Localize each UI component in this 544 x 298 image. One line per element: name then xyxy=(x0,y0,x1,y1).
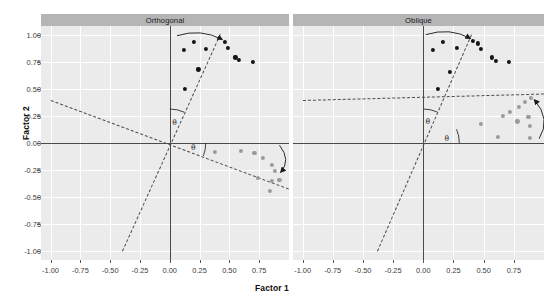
data-point xyxy=(182,48,186,52)
x-tick-label: 0.50 xyxy=(476,266,490,275)
data-point xyxy=(526,115,530,119)
y-tick-label: 0.00 xyxy=(5,139,41,148)
data-point xyxy=(270,163,274,167)
data-point xyxy=(268,189,272,193)
x-tick-label: -0.25 xyxy=(132,266,149,275)
x-tick-mark xyxy=(259,260,260,263)
data-point xyxy=(507,60,511,64)
x-tick-label: -0.50 xyxy=(102,266,119,275)
x-tick-mark xyxy=(393,260,394,263)
x-tick-mark xyxy=(229,260,230,263)
data-point xyxy=(239,148,243,152)
grid-line-horizontal xyxy=(41,197,289,198)
data-point xyxy=(431,48,435,52)
x-tick-mark xyxy=(170,260,171,263)
data-point xyxy=(471,39,475,43)
data-point xyxy=(223,40,227,44)
data-point xyxy=(527,135,531,139)
grid-line-horizontal xyxy=(293,197,544,198)
theta-arc-vertical xyxy=(170,109,184,112)
x-tick-label: 0.25 xyxy=(192,266,206,275)
y-tick-mark xyxy=(37,62,40,63)
grid-line-horizontal xyxy=(41,170,289,171)
x-tick-mark xyxy=(363,260,364,263)
y-tick-mark xyxy=(37,89,40,90)
grid-line-horizontal xyxy=(293,35,544,36)
grid-line-horizontal xyxy=(41,251,289,252)
y-tick-label: -0.75 xyxy=(5,220,41,229)
x-tick-label: -1.00 xyxy=(42,266,59,275)
y-tick-label: 0.50 xyxy=(5,84,41,93)
y-tick-label: -0.25 xyxy=(5,166,41,175)
data-point xyxy=(515,119,519,123)
x-tick-mark xyxy=(333,260,334,263)
x-tick-label: 0.75 xyxy=(507,266,521,275)
grid-line-horizontal xyxy=(293,89,544,90)
y-tick-mark xyxy=(37,170,40,171)
y-tick-label: 0.25 xyxy=(5,111,41,120)
x-tick-label: 0.50 xyxy=(222,266,236,275)
strip-label-orthogonal: Orthogonal xyxy=(41,14,289,26)
x-tick-mark xyxy=(484,260,485,263)
x-axis-title: Factor 1 xyxy=(0,283,544,293)
y-tick-label: -1.00 xyxy=(5,247,41,256)
data-point xyxy=(251,60,255,64)
grid-line-horizontal xyxy=(293,251,544,252)
x-tick-mark xyxy=(303,260,304,263)
x-tick-label: -0.25 xyxy=(385,266,402,275)
x-tick-mark xyxy=(140,260,141,263)
rotation-arrow-right xyxy=(534,100,544,139)
plot-area-oblique: θθ xyxy=(293,26,544,260)
y-tick-label: 0.75 xyxy=(5,57,41,66)
data-point xyxy=(203,47,207,51)
x-tick-label: 0.00 xyxy=(416,266,430,275)
data-point xyxy=(261,156,265,160)
data-point xyxy=(277,178,281,182)
grid-line-horizontal xyxy=(41,224,289,225)
x-tick-label: -0.75 xyxy=(324,266,341,275)
y-tick-mark xyxy=(37,251,40,252)
data-point xyxy=(183,87,187,91)
theta-arc-horizontal xyxy=(203,143,205,156)
data-point xyxy=(508,109,512,113)
x-axis-oblique: -1.00-0.75-0.50-0.250.000.250.500.75 xyxy=(293,260,544,282)
theta-arc-horizontal xyxy=(457,129,460,143)
x-tick-label: 0.00 xyxy=(163,266,177,275)
theta-label-horizontal: θ xyxy=(445,134,450,143)
y-tick-mark xyxy=(37,116,40,117)
rotation-arrow-right xyxy=(279,145,285,172)
data-point xyxy=(213,150,217,154)
data-point xyxy=(273,169,277,173)
y-tick-mark xyxy=(37,143,40,144)
y-tick-mark xyxy=(37,224,40,225)
x-tick-label: -0.50 xyxy=(355,266,372,275)
y-axis: 1.000.750.500.250.00-0.25-0.50-0.75-1.00 xyxy=(0,0,41,298)
data-point xyxy=(252,151,256,155)
x-tick-mark xyxy=(453,260,454,263)
x-tick-label: -0.75 xyxy=(72,266,89,275)
strip-label-oblique: Oblique xyxy=(293,14,544,26)
data-point xyxy=(517,105,521,109)
data-point xyxy=(523,100,527,104)
data-point xyxy=(436,87,440,91)
y-tick-mark xyxy=(37,197,40,198)
x-tick-label: 0.75 xyxy=(252,266,266,275)
plot-area-orthogonal: θθ xyxy=(41,26,289,260)
theta-label-vertical: θ xyxy=(426,117,431,126)
data-point xyxy=(476,41,480,45)
data-point xyxy=(529,95,533,99)
x-tick-label: -1.00 xyxy=(294,266,311,275)
x-axis-orthogonal: -1.00-0.75-0.50-0.250.000.250.500.75 xyxy=(41,260,289,282)
data-point xyxy=(455,46,459,50)
grid-line-horizontal xyxy=(293,116,544,117)
x-tick-mark xyxy=(514,260,515,263)
y-tick-label: 1.00 xyxy=(5,30,41,39)
data-point xyxy=(501,114,505,118)
x-tick-mark xyxy=(51,260,52,263)
data-point xyxy=(527,124,531,128)
data-point xyxy=(192,40,196,44)
y-tick-label: -0.50 xyxy=(5,193,41,202)
data-point xyxy=(441,40,445,44)
grid-line-horizontal xyxy=(41,116,289,117)
y-tick-mark xyxy=(37,35,40,36)
